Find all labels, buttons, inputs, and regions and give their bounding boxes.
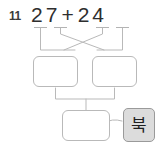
- result-answer-box[interactable]: [62, 110, 110, 141]
- hint-button[interactable]: 북: [123, 108, 155, 142]
- connector-right-ones-to-right-box: [97, 28, 123, 50]
- math-worksheet-problem: 11 27+24 북: [0, 0, 165, 149]
- connector-left-tens-to-left-box: [41, 28, 76, 50]
- connector-left-ones-crossing: [61, 28, 105, 50]
- decomposition-box-left[interactable]: [33, 56, 78, 87]
- connector-right-tens-crossing: [64, 28, 103, 50]
- connector-boxes-to-result-bracket: [56, 88, 115, 99]
- decomposition-box-right[interactable]: [92, 56, 137, 87]
- hint-button-label: 북: [131, 117, 147, 134]
